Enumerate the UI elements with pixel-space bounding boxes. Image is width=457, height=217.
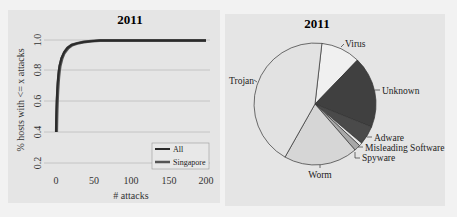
- label-unknown: Unknown: [382, 86, 420, 96]
- label-misleading-software: Misleading Software: [365, 143, 444, 153]
- label-adware: Adware: [374, 133, 404, 143]
- label-trojan: Trojan: [229, 76, 254, 86]
- pie-slices: [254, 43, 376, 165]
- label-worm: Worm: [308, 170, 332, 180]
- label-spyware: Spyware: [362, 153, 395, 163]
- pie-chart-title: 2011: [304, 16, 329, 31]
- label-virus: Virus: [345, 39, 366, 49]
- pie-chart: 2011 Virus Unknown Adware Misleading Sof…: [0, 0, 457, 217]
